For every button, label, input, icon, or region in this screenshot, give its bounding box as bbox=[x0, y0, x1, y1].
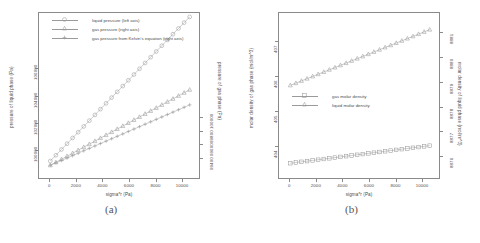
y-left-tick-label: 405 bbox=[273, 116, 278, 124]
y-right-tick-label: 8881 bbox=[449, 34, 454, 44]
legend-label: liquid molar density bbox=[332, 101, 370, 110]
y-axis-left-title-a: pressure of liquid phase (Pa) bbox=[9, 66, 14, 128]
x-tick-label: 4000 bbox=[94, 183, 110, 188]
x-tick-mark bbox=[342, 179, 343, 182]
y-left-tick-label: 106000 bbox=[33, 65, 38, 80]
x-tick-mark bbox=[102, 179, 103, 182]
y-right-tick-label: 99400 bbox=[209, 157, 214, 170]
y-right-tick-label: 8877 bbox=[449, 133, 454, 143]
y-right-tick-mark bbox=[440, 107, 443, 108]
x-tick-mark bbox=[49, 179, 50, 182]
x-tick-label: 10000 bbox=[414, 183, 430, 188]
y-right-tick-label: 99600 bbox=[209, 143, 214, 156]
y-axis-left-title-b: molar density of gas phase (mol/m^3) bbox=[249, 47, 254, 127]
y-left-tick-mark bbox=[275, 76, 278, 77]
y-right-tick-label: 8880 bbox=[449, 59, 454, 69]
x-tick-label: 0 bbox=[281, 183, 297, 188]
y-left-tick-label: 407 bbox=[273, 45, 278, 53]
y-axis-right-title-a: pressure of gas phase (Pa) bbox=[217, 62, 222, 120]
legend-plus-icon bbox=[62, 35, 67, 40]
y-left-tick-mark bbox=[275, 41, 278, 42]
x-tick-mark bbox=[289, 179, 290, 182]
x-tick-label: 0 bbox=[41, 183, 57, 188]
y-right-tick-mark bbox=[200, 117, 203, 118]
y-right-tick-mark bbox=[200, 144, 203, 145]
x-tick-label: 10000 bbox=[174, 183, 190, 188]
x-axis-title-b: sigma*r (Pa) bbox=[339, 192, 379, 197]
y-right-tick-label: 8876 bbox=[449, 158, 454, 168]
y-right-tick-mark bbox=[200, 131, 203, 132]
x-tick-mark bbox=[422, 179, 423, 182]
panel-b: gas molar densityliquid molar density 02… bbox=[240, 0, 480, 243]
legend-triangle-icon bbox=[302, 102, 307, 107]
y-left-tick-mark bbox=[275, 146, 278, 147]
x-tick-label: 2000 bbox=[308, 183, 324, 188]
x-tick-mark bbox=[129, 179, 130, 182]
x-axis-title-a: sigma*r (Pa) bbox=[99, 192, 139, 197]
y-left-tick-label: 104000 bbox=[33, 92, 38, 107]
x-tick-label: 6000 bbox=[361, 183, 377, 188]
caption-a: (a) bbox=[105, 203, 117, 215]
x-tick-label: 4000 bbox=[334, 183, 350, 188]
x-tick-label: 8000 bbox=[148, 183, 164, 188]
y-right-tick-label: 99800 bbox=[209, 130, 214, 143]
panel-a: liquid pressure (left axis)gas pressure … bbox=[0, 0, 240, 243]
legend-circle-icon bbox=[62, 17, 67, 22]
y-left-tick-mark bbox=[275, 111, 278, 112]
x-tick-label: 8000 bbox=[388, 183, 404, 188]
y-left-tick-label: 404 bbox=[273, 151, 278, 159]
x-tick-mark bbox=[182, 179, 183, 182]
legend-label: gas molar density bbox=[332, 92, 366, 101]
y-left-tick-label: 100000 bbox=[33, 147, 38, 162]
x-tick-label: 6000 bbox=[121, 183, 137, 188]
legend-label: gas pressure (right axis) bbox=[92, 25, 139, 34]
y-right-tick-mark bbox=[440, 131, 443, 132]
legend-triangle-icon bbox=[62, 26, 67, 31]
y-left-tick-label: 102000 bbox=[33, 120, 38, 135]
y-right-tick-mark bbox=[440, 156, 443, 157]
y-right-tick-mark bbox=[440, 82, 443, 83]
y-right-tick-label: 8878 bbox=[449, 108, 454, 118]
x-tick-mark bbox=[76, 179, 77, 182]
x-tick-mark bbox=[316, 179, 317, 182]
y-left-tick-label: 406 bbox=[273, 81, 278, 89]
figure-two-panel-plot: liquid pressure (left axis)gas pressure … bbox=[0, 0, 480, 243]
y-right-tick-mark bbox=[440, 32, 443, 33]
x-tick-label: 2000 bbox=[68, 183, 84, 188]
y-right-tick-label: 8879 bbox=[449, 84, 454, 94]
y-right-tick-mark bbox=[440, 57, 443, 58]
legend-square-icon bbox=[302, 93, 307, 98]
y-right-tick-label: 100000 bbox=[209, 114, 214, 129]
y-axis-right-title-b: molar density of liquid phase (mol/m^3) bbox=[457, 62, 462, 146]
legend-label: gas pressure from Kelvin's equation (rig… bbox=[92, 34, 183, 43]
caption-b: (b) bbox=[345, 203, 358, 215]
x-tick-mark bbox=[156, 179, 157, 182]
x-tick-mark bbox=[369, 179, 370, 182]
legend-label: liquid pressure (left axis) bbox=[92, 16, 140, 25]
y-right-tick-mark bbox=[200, 158, 203, 159]
x-tick-mark bbox=[396, 179, 397, 182]
